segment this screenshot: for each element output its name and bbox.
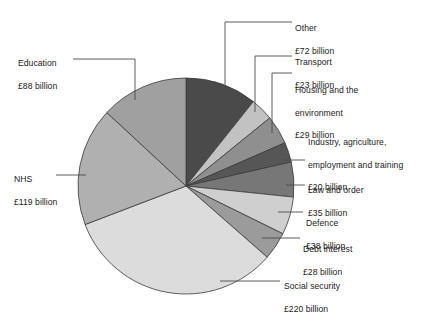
label-housing-name-line1: Housing and the <box>295 85 358 96</box>
label-law-and-order-name: Law and order <box>308 185 364 196</box>
leader-line-housing <box>272 73 292 133</box>
label-education-name: Education <box>18 58 57 69</box>
label-housing-name-line2: environment <box>295 108 358 119</box>
label-nhs: NHS £119 billion <box>14 163 57 219</box>
label-industry-name-line1: Industry, agriculture, <box>308 137 403 148</box>
leader-line-education <box>73 59 135 100</box>
leader-line-other <box>225 22 292 89</box>
label-transport-name: Transport <box>295 57 334 68</box>
label-defence-name: Defence <box>306 218 345 229</box>
label-nhs-name: NHS <box>14 174 57 185</box>
label-nhs-value: £119 billion <box>14 197 57 208</box>
leader-line-transport <box>255 56 292 112</box>
label-education-value: £88 billion <box>18 81 57 92</box>
label-social-security-name: Social security <box>284 281 340 292</box>
label-industry-name-line2: employment and training <box>308 160 403 171</box>
label-social-security: Social security £220 billion <box>284 270 340 316</box>
label-other-name: Other <box>295 23 334 34</box>
pie-slices-group <box>78 78 294 294</box>
label-social-security-value: £220 billion <box>284 304 340 315</box>
label-debt-interest-name: Debt interest <box>303 244 352 255</box>
label-education: Education £88 billion <box>18 47 57 103</box>
